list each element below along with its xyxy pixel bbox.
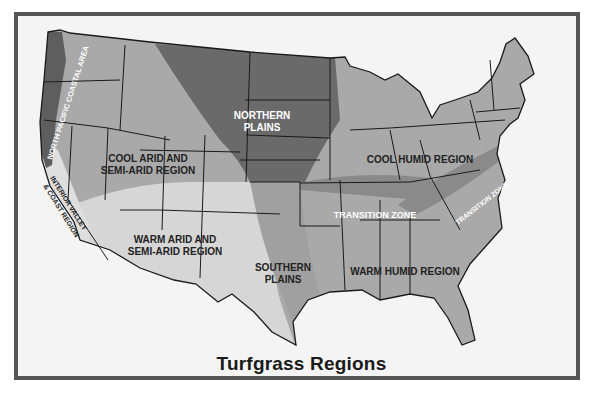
label-cool-arid-line2: SEMI-ARID REGION	[101, 165, 195, 176]
label-cool-humid-region: COOL HUMID REGION	[367, 154, 473, 165]
label-southern-plains-line1: SOUTHERN	[255, 262, 311, 273]
map-title: Turfgrass Regions	[0, 353, 603, 375]
label-warm-humid-region: WARM HUMID REGION	[350, 266, 459, 277]
label-transition-zone-central: TRANSITION ZONE	[334, 210, 417, 220]
label-warm-arid-line2: SEMI-ARID REGION	[128, 246, 222, 257]
map-caption	[0, 405, 603, 419]
label-warm-arid-line1: WARM ARID AND	[134, 234, 217, 245]
label-northern-plains-line1: NORTHERN	[234, 110, 291, 121]
label-cool-arid-line1: COOL ARID AND	[108, 153, 188, 164]
label-southern-plains-line2: PLAINS	[265, 274, 302, 285]
label-northern-plains-line2: PLAINS	[244, 122, 281, 133]
